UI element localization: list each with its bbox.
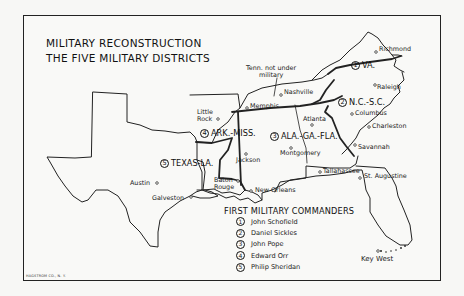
florida-keys (380, 245, 406, 253)
tennessee-note-2: military (259, 72, 283, 79)
city-marker-savannah (354, 144, 357, 147)
city-marker-galveston (190, 196, 193, 199)
city-marker-little-rock (217, 118, 220, 121)
district-4-label: 4ARK.-MISS. (200, 128, 256, 138)
city-marker-richmond (375, 51, 378, 54)
commander-number: 1 (236, 217, 245, 226)
legend-item: 2Daniel Sickles (236, 227, 354, 238)
commander-name: Daniel Sickles (251, 229, 297, 237)
miss-ala-border (238, 112, 241, 185)
city-marker-tallahassee (319, 171, 322, 174)
city-marker-nashville (280, 94, 283, 97)
city-galveston: Galveston (152, 195, 184, 202)
city-st-augustine: St. Augustine (364, 173, 407, 180)
city-key-west: Key West (361, 256, 393, 263)
city-marker-atlanta (311, 124, 314, 127)
city-jackson: Jackson (236, 157, 260, 164)
city-marker-charleston (368, 126, 371, 129)
legend: FIRST MILITARY COMMANDERS 1John Schofiel… (224, 206, 354, 273)
commander-number: 3 (236, 240, 245, 249)
city-baton-rouge-2: Rouge (214, 184, 234, 191)
city-atlanta: Atlanta (303, 116, 326, 123)
city-marker-raleigh (374, 84, 377, 87)
city-marker-st-augustine (359, 177, 362, 180)
commander-number: 2 (236, 229, 245, 238)
legend-item: 5Philip Sheridan (236, 262, 354, 273)
legend-item: 4Edward Orr (236, 250, 354, 261)
commander-name: Philip Sheridan (251, 263, 300, 271)
city-charleston: Charleston (372, 123, 407, 130)
tennessee-note-pointer (274, 78, 277, 96)
title-line-2: THE FIVE MILITARY DISTRICTS (46, 52, 210, 64)
city-nashville: Nashville (284, 89, 313, 96)
district-3-number: 3 (270, 132, 279, 141)
commander-number: 4 (236, 251, 245, 260)
city-marker-jackson (245, 153, 248, 156)
city-little-rock-2: Rock (197, 116, 212, 123)
virginia-outline (312, 32, 402, 80)
city-austin: Austin (130, 180, 150, 187)
city-montgomery: Montgomery (280, 150, 321, 157)
city-marker-new-orleans (250, 190, 253, 193)
district-2-label: 2N.C.-S.C. (338, 97, 385, 107)
city-raleigh: Raleigh (377, 84, 401, 91)
city-memphis: Memphis (250, 103, 279, 110)
city-savannah: Savannah (358, 144, 390, 151)
district-1-label: 1VA. (351, 60, 375, 70)
commander-name: John Pope (251, 240, 283, 248)
texas-outline (47, 92, 202, 247)
district-4-number: 4 (200, 129, 209, 138)
commander-number: 5 (236, 263, 245, 272)
district-2-number: 2 (338, 98, 347, 107)
city-marker-austin (156, 182, 159, 185)
title-line-1: MILITARY RECONSTRUCTION (46, 37, 202, 49)
legend-item: 3John Pope (236, 239, 354, 250)
district-5-label: 5TEXAS-LA. (160, 158, 213, 168)
city-tallahassee: Tallahassee (323, 168, 360, 175)
commander-name: John Schofield (251, 218, 298, 226)
city-new-orleans: New Orleans (255, 187, 296, 194)
city-marker-memphis (246, 107, 249, 110)
legend-title: FIRST MILITARY COMMANDERS (224, 206, 354, 216)
district-1-number: 1 (351, 61, 360, 70)
district-5-number: 5 (160, 159, 169, 168)
district-3-label: 3ALA.-GA.-FLA. (270, 131, 338, 141)
commander-name: Edward Orr (251, 252, 288, 260)
city-marker-key-west (377, 250, 380, 253)
city-marker-baton-rouge (237, 180, 240, 183)
city-marker-columbus (351, 113, 354, 116)
city-columbus: Columbus (355, 110, 387, 117)
publisher-credit: HAGSTROM CO., N. Y. (26, 274, 66, 278)
city-richmond: Richmond (379, 46, 411, 53)
legend-item: 1John Schofield (236, 216, 354, 227)
